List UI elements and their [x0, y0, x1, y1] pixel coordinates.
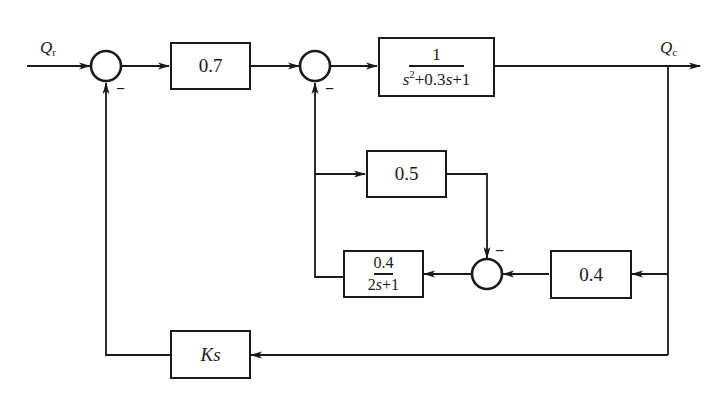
plant-numerator: 1 [428, 46, 445, 66]
ks-feedback-line [106, 83, 170, 355]
sum1-minus-sign: − [116, 80, 125, 98]
sum2-minus-sign: − [325, 80, 334, 98]
lag-denominator: 2s+1 [368, 275, 399, 294]
sum3-minus-sign: − [495, 242, 504, 260]
plant-block: 1 s2+0.3s+1 [378, 37, 495, 97]
summing-junction-2 [300, 51, 330, 81]
signal-lines [0, 0, 723, 398]
output-signal-label: Qc [660, 38, 677, 58]
inner-gain-block: 0.5 [366, 150, 447, 198]
plant-denominator: s2+0.3s+1 [403, 67, 471, 89]
output-gain-block: 0.4 [550, 250, 632, 299]
forward-gain-block: 0.7 [170, 42, 251, 90]
inner-gain-to-sum3-line [447, 174, 487, 258]
summing-junction-3 [472, 259, 502, 289]
lag-feedback-line [315, 83, 343, 277]
lag-numerator: 0.4 [369, 255, 397, 274]
lag-block: 0.4 2s+1 [343, 250, 424, 298]
derivative-feedback-block: Ks [170, 330, 251, 379]
input-signal-label: Qr [40, 38, 56, 58]
summing-junction-1 [91, 51, 121, 81]
